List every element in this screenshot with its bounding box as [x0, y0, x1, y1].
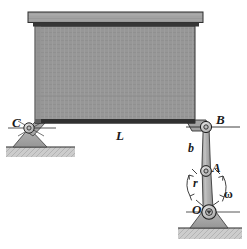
figure-canvas: C L B b A r ω O — [0, 0, 247, 249]
label-b: b — [188, 142, 194, 154]
label-C: C — [12, 116, 21, 129]
label-A: A — [212, 161, 221, 174]
label-B: B — [216, 113, 225, 126]
ground-left — [6, 147, 75, 157]
ground-right — [178, 228, 242, 239]
connecting-rod-b — [202, 127, 211, 171]
pin-joint-A — [201, 166, 212, 177]
label-omega: ω — [224, 188, 233, 200]
top-plate — [28, 12, 203, 27]
pin-joint-O — [202, 205, 216, 219]
pin-joint-C — [24, 123, 34, 133]
label-O: O — [192, 203, 201, 216]
label-L: L — [116, 129, 124, 142]
mechanism-diagram — [0, 0, 247, 249]
rigid-body-block — [35, 26, 195, 124]
label-r: r — [193, 177, 198, 189]
